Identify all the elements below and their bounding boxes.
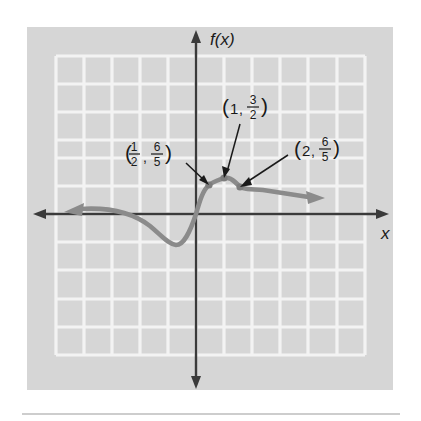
paren-close: ) (261, 94, 268, 117)
fraction-denominator: 2 (250, 108, 257, 122)
paren-open: ( (222, 95, 229, 118)
graph-svg: f(x) x ( 1 2 , 6 5 ) ( 1 , 3 2 ) ( 2 , 6… (0, 0, 421, 421)
paren-open: ( (294, 137, 301, 160)
comma: , (311, 143, 315, 159)
fraction-denominator: 5 (322, 150, 329, 164)
comma: , (143, 149, 147, 165)
fraction-numerator: 6 (322, 135, 329, 149)
paren-close: ) (165, 141, 172, 164)
paren-close: ) (333, 136, 340, 159)
x-axis-label: x (380, 224, 390, 243)
y-axis-label: f(x) (210, 30, 235, 49)
graph-figure: f(x) x ( 1 2 , 6 5 ) ( 1 , 3 2 ) ( 2 , 6… (0, 0, 421, 421)
fraction-denominator: 2 (131, 155, 138, 169)
comma: , (239, 101, 243, 117)
fraction-numerator: 6 (154, 140, 161, 154)
x-value: 1 (230, 100, 238, 117)
fraction-denominator: 5 (154, 155, 161, 169)
x-value: 2 (302, 142, 310, 159)
fraction-numerator: 1 (131, 140, 138, 154)
fraction-numerator: 3 (250, 93, 257, 107)
